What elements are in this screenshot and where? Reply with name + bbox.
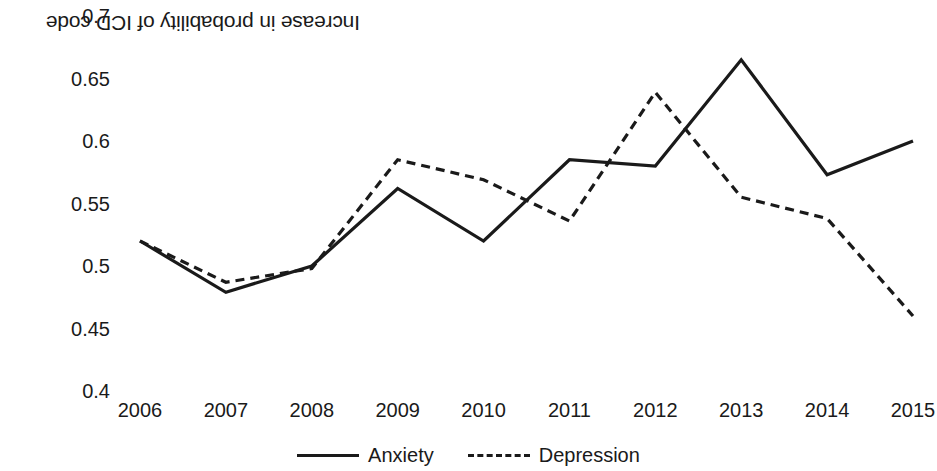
x-axis-tick-label: 2013 <box>701 396 781 424</box>
legend-label: Depression <box>539 445 640 465</box>
series-layer <box>140 60 913 316</box>
plot-area <box>120 6 930 406</box>
line-chart: Increase in probability of ICD code 0.70… <box>0 0 937 471</box>
x-axis-tick-labels: 2006200720082009201020112012201320142015 <box>120 396 930 428</box>
legend-item-anxiety[interactable]: Anxiety <box>297 445 434 465</box>
y-axis-tick-labels: 0.70.650.60.550.50.450.4 <box>48 0 110 410</box>
x-axis-tick-label: 2006 <box>100 396 180 424</box>
x-axis-tick-label: 2014 <box>787 396 867 424</box>
legend-swatch-dashed-line-icon <box>468 454 530 457</box>
chart-legend: AnxietyDepression <box>0 440 937 470</box>
y-axis-tick-label: 0.7 <box>48 6 110 26</box>
y-axis-tick-label: 0.55 <box>48 194 110 214</box>
x-axis-tick-label: 2008 <box>272 396 352 424</box>
legend-swatch-solid-line-icon <box>297 454 359 457</box>
y-axis-tick-label: 0.6 <box>48 131 110 151</box>
x-axis-tick-label: 2010 <box>444 396 524 424</box>
x-axis-tick-label: 2007 <box>186 396 266 424</box>
legend-item-depression[interactable]: Depression <box>468 445 640 465</box>
series-line-anxiety <box>140 60 913 293</box>
legend-label: Anxiety <box>368 445 434 465</box>
y-axis-tick-label: 0.65 <box>48 69 110 89</box>
plot-svg <box>120 6 930 406</box>
y-axis-tick-label: 0.5 <box>48 256 110 276</box>
x-axis-tick-label: 2015 <box>873 396 937 424</box>
x-axis-tick-label: 2011 <box>529 396 609 424</box>
x-axis-tick-label: 2009 <box>358 396 438 424</box>
y-axis-tick-label: 0.45 <box>48 319 110 339</box>
y-axis-title: Increase in probability of ICD code <box>0 0 40 40</box>
x-axis-tick-label: 2012 <box>615 396 695 424</box>
